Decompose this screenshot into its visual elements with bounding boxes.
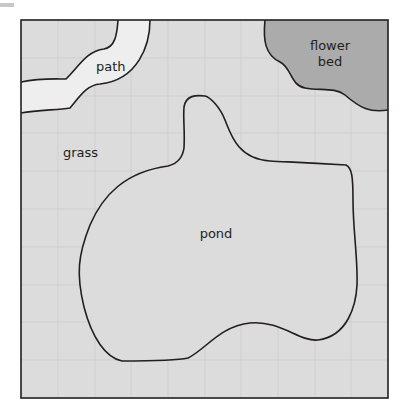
pond-label: pond — [200, 226, 233, 241]
garden-map: path flower bed grass pond — [0, 0, 407, 415]
grass-label: grass — [63, 145, 98, 160]
flower-bed-label-line2: bed — [318, 54, 343, 69]
flower-bed-label-line1: flower — [310, 38, 351, 53]
path-label: path — [96, 59, 126, 74]
